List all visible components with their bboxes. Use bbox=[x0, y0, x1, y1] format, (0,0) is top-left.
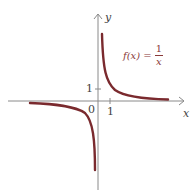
y-axis-label: y bbox=[105, 12, 111, 23]
y-tick-label-1: 1 bbox=[86, 83, 93, 94]
curve-negative-branch bbox=[30, 103, 95, 170]
function-lhs: f(x) = bbox=[123, 50, 152, 61]
fraction-denominator: x bbox=[156, 56, 162, 67]
plot-area bbox=[0, 0, 195, 194]
origin-label: 0 bbox=[88, 104, 95, 115]
x-tick-label-1: 1 bbox=[107, 106, 114, 117]
function-label: f(x) = 1 x bbox=[123, 44, 163, 67]
function-fraction: 1 x bbox=[155, 44, 163, 67]
chart-root: y x 1 1 0 f(x) = 1 x bbox=[0, 0, 195, 194]
x-axis-label: x bbox=[183, 108, 189, 119]
fraction-numerator: 1 bbox=[155, 44, 163, 56]
